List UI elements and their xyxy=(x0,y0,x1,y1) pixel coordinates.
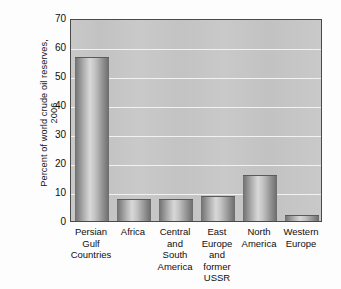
x-axis-tick-label-line: East xyxy=(196,226,238,238)
x-axis-tick-label-line: and xyxy=(196,249,238,261)
y-axis-tick-label: 70 xyxy=(44,14,66,24)
x-axis-tick-label-line: and xyxy=(154,238,196,250)
y-axis-tick-label: 30 xyxy=(44,130,66,140)
gridline xyxy=(71,49,321,50)
y-axis-tick-label: 40 xyxy=(44,101,66,111)
x-axis-tick-label-line: Central xyxy=(154,226,196,238)
bar xyxy=(243,175,277,221)
x-axis-tick-label: PersianGulfCountries xyxy=(70,226,112,261)
bar xyxy=(159,199,193,221)
bar xyxy=(201,196,235,221)
y-axis-tick-label: 60 xyxy=(44,43,66,53)
x-axis-tick-label: NorthAmerica xyxy=(238,226,280,249)
x-axis-tick-label: CentralandSouthAmerica xyxy=(154,226,196,272)
x-axis-tick-label-line: Africa xyxy=(112,226,154,238)
x-axis-tick-label: Africa xyxy=(112,226,154,238)
y-axis-tick-label: 0 xyxy=(44,217,66,227)
x-axis-tick-label-line: USSR xyxy=(196,272,238,284)
x-axis-tick-label-line: North xyxy=(238,226,280,238)
x-axis-tick-labels: PersianGulfCountriesAfricaCentralandSout… xyxy=(70,226,322,288)
x-axis-tick-label-line: Countries xyxy=(70,249,112,261)
x-axis-tick-label-line: Western xyxy=(280,226,322,238)
x-axis-tick-label: EastEuropeandformerUSSR xyxy=(196,226,238,284)
y-axis-tick-label: 10 xyxy=(44,188,66,198)
y-axis-tick-labels: 706050403020100 xyxy=(42,0,66,289)
x-axis-tick-label-line: former xyxy=(196,261,238,273)
bar xyxy=(285,215,319,221)
x-axis-tick-label-line: America xyxy=(238,238,280,250)
x-axis-tick-label-line: South xyxy=(154,249,196,261)
x-axis-tick-label: WesternEurope xyxy=(280,226,322,249)
x-axis-tick-label-line: Europe xyxy=(280,238,322,250)
bar xyxy=(117,199,151,221)
plot-area xyxy=(70,19,322,222)
bar-chart-figure: Percent of world crude oil reserves, 200… xyxy=(0,0,341,289)
bar xyxy=(75,57,109,221)
x-axis-tick-label-line: Persian xyxy=(70,226,112,238)
y-axis-tick-label: 20 xyxy=(44,159,66,169)
x-axis-tick-label-line: America xyxy=(154,261,196,273)
y-axis-tick-label: 50 xyxy=(44,72,66,82)
x-axis-tick-label-line: Europe xyxy=(196,238,238,250)
x-axis-tick-label-line: Gulf xyxy=(70,238,112,250)
